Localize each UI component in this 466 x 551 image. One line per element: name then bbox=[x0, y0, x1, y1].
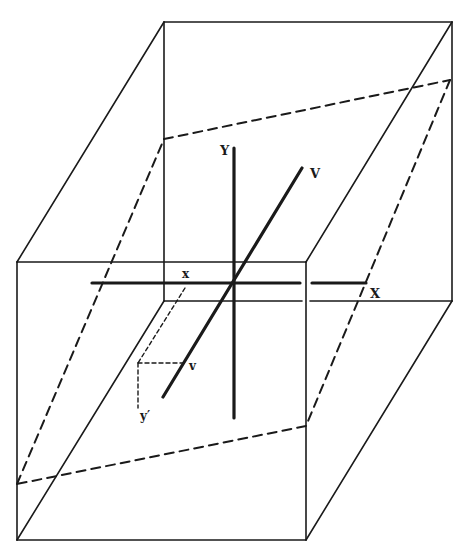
label-y-prime: y′ bbox=[139, 409, 150, 423]
label-x: x bbox=[182, 267, 190, 281]
label-Y: Y bbox=[219, 143, 230, 158]
label-V: V bbox=[309, 166, 321, 181]
label-X: X bbox=[370, 286, 381, 301]
axes bbox=[92, 148, 366, 418]
label-v: v bbox=[188, 359, 197, 373]
box-diagram: Y V X x v y′ bbox=[0, 0, 466, 551]
